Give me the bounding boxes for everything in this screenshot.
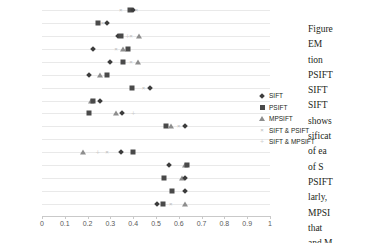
body-text-line: SIFT bbox=[308, 98, 368, 113]
x-axis-tick-label: 0.3 bbox=[106, 220, 116, 227]
sift-marker bbox=[104, 20, 110, 26]
sift-psift-marker: × bbox=[176, 124, 181, 129]
scatter-plot: μ××ω15×ω14+×ω13×ω12×ω11ω10×ω9ω8+ω7×ω6ω5+… bbox=[42, 4, 270, 210]
gridline bbox=[42, 165, 270, 166]
sift-mpsift-marker: + bbox=[131, 111, 136, 116]
x-axis-tick bbox=[270, 216, 271, 219]
x-axis-tick-label: 0.7 bbox=[197, 220, 207, 227]
x-axis-tick bbox=[110, 216, 111, 219]
x-axis-tick bbox=[224, 216, 225, 219]
body-text-line: MPSI bbox=[308, 206, 368, 221]
x-axis-tick-label: 0.1 bbox=[60, 220, 70, 227]
body-text-line: that bbox=[308, 221, 368, 236]
legend-label: PSIFT bbox=[269, 104, 287, 111]
x-axis-tick bbox=[42, 216, 43, 219]
mpsift-marker bbox=[113, 111, 119, 116]
x-axis-tick-label: 0.5 bbox=[151, 220, 161, 227]
sift-psift-marker: × bbox=[104, 150, 109, 155]
sift-psift-marker: × bbox=[128, 59, 133, 64]
gridline bbox=[42, 10, 270, 11]
x-axis-tick-label: 0.9 bbox=[242, 220, 252, 227]
body-text-line: PSIFT bbox=[308, 175, 368, 190]
sift-mpsift-marker-icon: + bbox=[258, 139, 266, 144]
sift-psift-marker-icon: × bbox=[258, 128, 266, 133]
psift-marker-icon bbox=[258, 105, 266, 110]
body-text-line: and M bbox=[308, 236, 368, 243]
sift-psift-marker: × bbox=[114, 47, 119, 52]
body-text-column: FigureEMtionPSIFTSIFTSIFTshowssificatof … bbox=[300, 0, 368, 243]
body-text-line: sificat bbox=[308, 129, 368, 144]
x-axis-tick bbox=[202, 216, 203, 219]
sift-psift-marker: × bbox=[118, 8, 123, 13]
legend-label: MPSIFT bbox=[269, 115, 293, 122]
sift-marker bbox=[182, 123, 188, 129]
body-text-line: of S bbox=[308, 160, 368, 175]
sift-marker bbox=[119, 111, 125, 117]
psift-marker bbox=[184, 162, 189, 167]
body-text-line: Figure bbox=[308, 22, 368, 37]
sift-marker bbox=[118, 149, 124, 155]
gridline bbox=[42, 101, 270, 102]
chart-column: μ××ω15×ω14+×ω13×ω12×ω11ω10×ω9ω8+ω7×ω6ω5+… bbox=[0, 0, 300, 243]
mpsift-marker bbox=[135, 59, 141, 64]
psift-marker bbox=[131, 150, 136, 155]
gridline bbox=[42, 139, 270, 140]
sift-marker bbox=[97, 98, 103, 104]
sift-marker bbox=[86, 72, 92, 78]
sift-psift-marker: × bbox=[134, 8, 139, 13]
x-axis-tick-label: 0.8 bbox=[220, 220, 230, 227]
legend-label: SIFT bbox=[269, 92, 283, 99]
psift-marker bbox=[130, 85, 135, 90]
x-axis-tick bbox=[133, 216, 134, 219]
psift-marker bbox=[125, 47, 130, 52]
x-axis-tick bbox=[65, 216, 66, 219]
body-text-line: of ea bbox=[308, 144, 368, 159]
sift-marker-icon bbox=[258, 94, 266, 98]
gridline bbox=[42, 113, 270, 114]
sift-marker bbox=[147, 85, 153, 91]
x-axis-tick-label: 1 bbox=[268, 220, 272, 227]
sift-psift-marker: × bbox=[128, 34, 133, 39]
x-axis-tick bbox=[88, 216, 89, 219]
body-text-line: shows bbox=[308, 114, 368, 129]
sift-psift-marker: × bbox=[168, 201, 173, 206]
x-axis-tick-label: 0.2 bbox=[83, 220, 93, 227]
x-axis-tick bbox=[247, 216, 248, 219]
body-text-line: larly, bbox=[308, 190, 368, 205]
mpsift-marker bbox=[80, 150, 86, 155]
psift-marker bbox=[86, 111, 91, 116]
sift-marker bbox=[108, 59, 114, 65]
gridline bbox=[42, 191, 270, 192]
gridline bbox=[42, 36, 270, 37]
x-axis-tick bbox=[156, 216, 157, 219]
psift-marker bbox=[118, 34, 123, 39]
gridline bbox=[42, 152, 270, 153]
x-axis-tick-label: 0.4 bbox=[128, 220, 138, 227]
figure-page: μ××ω15×ω14+×ω13×ω12×ω11ω10×ω9ω8+ω7×ω6ω5+… bbox=[0, 0, 368, 243]
gridline bbox=[42, 178, 270, 179]
sift-marker bbox=[154, 201, 160, 207]
sift-marker bbox=[182, 188, 188, 194]
psift-marker bbox=[120, 59, 125, 64]
sift-psift-marker: × bbox=[141, 85, 146, 90]
mpsift-marker-icon bbox=[258, 116, 266, 121]
gridline bbox=[42, 75, 270, 76]
mpsift-marker bbox=[136, 34, 142, 39]
mpsift-marker bbox=[182, 201, 188, 206]
x-axis-tick-label: 0.6 bbox=[174, 220, 184, 227]
gridline bbox=[42, 62, 270, 63]
gridline bbox=[42, 49, 270, 50]
psift-marker bbox=[91, 98, 96, 103]
body-text-line: EM bbox=[308, 37, 368, 52]
body-text-line: SIFT bbox=[308, 83, 368, 98]
psift-marker bbox=[169, 188, 174, 193]
gridline bbox=[42, 23, 270, 24]
gridline bbox=[42, 88, 270, 89]
mpsift-marker bbox=[97, 72, 103, 77]
mpsift-marker bbox=[168, 124, 174, 129]
psift-marker bbox=[161, 175, 166, 180]
x-axis-tick-label: 0 bbox=[40, 220, 44, 227]
sift-marker bbox=[166, 162, 172, 168]
x-axis-tick bbox=[179, 216, 180, 219]
psift-marker bbox=[160, 201, 165, 206]
